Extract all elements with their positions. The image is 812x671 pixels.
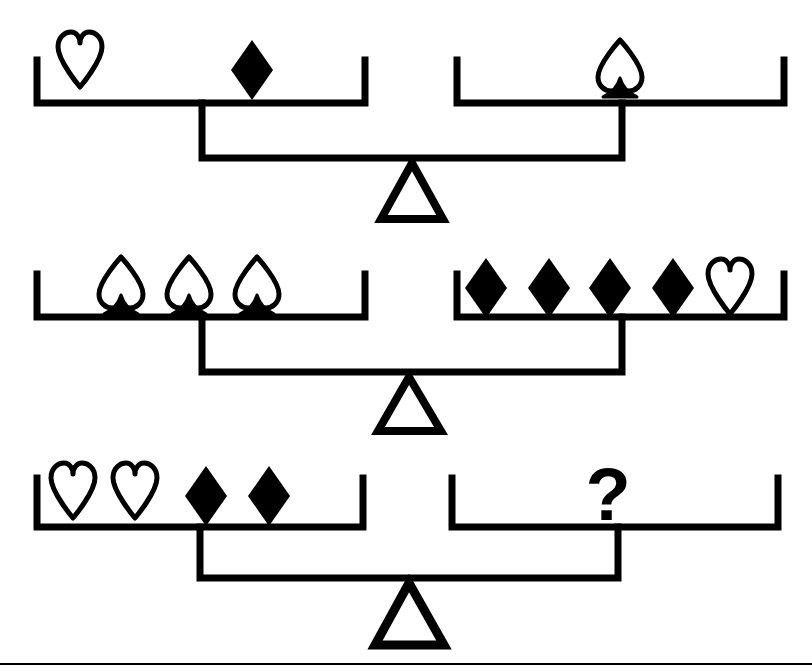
- scale-1-fulcrum-triangle: [381, 163, 443, 219]
- scale-1-right-pan: [457, 40, 784, 103]
- scale-3-fulcrum-triangle: [375, 583, 444, 645]
- scale-2-beam: [202, 317, 622, 372]
- item-diamond: [465, 258, 507, 318]
- item-diamond: [185, 466, 227, 526]
- scale-2: [37, 257, 784, 431]
- scale-3-left-pan: [37, 463, 363, 527]
- scale-1-beam: [202, 103, 622, 158]
- balance-puzzle-figure: ?: [0, 0, 812, 671]
- item-spade: [99, 257, 143, 314]
- item-heart: [113, 463, 157, 518]
- item-diamond: [528, 258, 570, 318]
- scale-1-left-pan: [37, 32, 365, 103]
- item-diamond: [652, 258, 694, 318]
- item-diamond: [231, 40, 273, 100]
- item-diamond: [248, 466, 290, 526]
- scale-3-beam: [200, 527, 618, 578]
- unknown-question-mark: ?: [585, 453, 630, 536]
- item-heart: [708, 259, 752, 314]
- item-diamond: [589, 258, 631, 318]
- item-heart: [51, 463, 95, 518]
- scale-3: ?: [37, 453, 778, 645]
- scale-2-left-pan: [37, 257, 365, 317]
- item-spade: [235, 257, 279, 314]
- item-spade: [167, 257, 211, 314]
- scale-1: [37, 32, 784, 219]
- scale-2-right-pan: [457, 258, 784, 318]
- puzzle-canvas: ?: [0, 0, 812, 671]
- item-heart: [58, 32, 102, 87]
- item-spade: [598, 40, 642, 97]
- scale-2-fulcrum-triangle: [378, 377, 441, 431]
